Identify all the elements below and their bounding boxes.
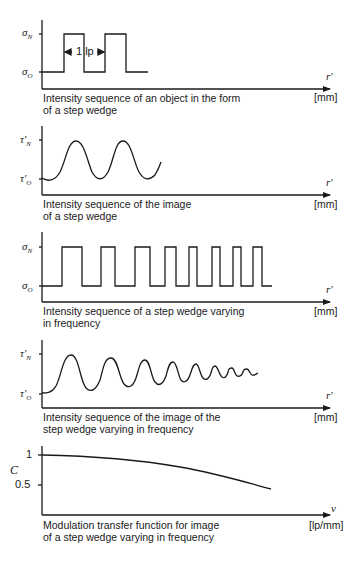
x-axis-label-nu: ν [331,502,336,514]
y-label-tau-n: τ'N [20,133,31,148]
y-tick-0-5: 0.5 [15,478,30,490]
panel-3-square-wave [42,247,272,286]
x-axis-label-r: r' [326,176,333,188]
panel-2-axes [39,126,330,195]
mtf-curve [42,455,271,489]
unit-label: [mm] [314,91,337,103]
panel-1-square-wave [42,34,148,72]
unit-label: [mm] [314,411,337,423]
y-label-tau-n: τ'N [20,347,31,362]
x-axis-label-r: r' [326,283,333,295]
caption-panel-4: Intensity sequence of the image of the s… [43,411,220,435]
unit-label: [lp/mm] [309,519,343,531]
y-label-sigma-o: σO [22,279,33,294]
x-axis-label-r: r' [326,70,333,82]
y-label-tau-o: τ'O [20,387,31,402]
caption-panel-1: Intensity sequence of an object in the f… [43,92,240,116]
x-axis-label-r: r' [326,389,333,401]
panel-2-sine-wave [42,141,161,180]
unit-label: [mm] [314,198,337,210]
one-lp-label: 1 lp [76,45,94,57]
caption-panel-5: Modulation transfer function for image o… [43,519,219,543]
y-label-sigma-n: σN [22,240,32,255]
panel-4-axes [39,340,330,408]
y-label-tau-o: τ'O [20,172,31,187]
y-axis-label-c: C [10,463,18,478]
y-label-sigma-n: σN [22,26,32,41]
caption-panel-2: Intensity sequence of the image of a ste… [43,198,191,222]
caption-panel-3: Intensity sequence of a step wedge varyi… [43,305,244,329]
y-label-sigma-o: σO [22,65,33,80]
figure-graphics [0,0,359,564]
unit-label: [mm] [314,305,337,317]
y-tick-1: 1 [26,448,32,460]
panel-4-chirp-wave [42,355,258,393]
